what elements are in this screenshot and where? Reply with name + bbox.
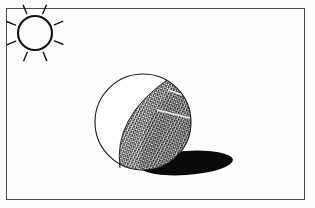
sun-ray-1 [7, 22, 15, 25]
sun-icon [7, 5, 63, 61]
sun-rays [7, 5, 63, 61]
sun-ray-5 [54, 41, 62, 44]
illustration-page: Light and shade on a sphere [0, 0, 315, 208]
sun-ray-7 [24, 52, 27, 60]
shading-diagram [0, 0, 315, 208]
sun-ray-2 [23, 5, 27, 13]
sun-disc-outline [18, 16, 52, 50]
sun-ray-3 [43, 5, 46, 13]
sun-ray-6 [43, 52, 47, 60]
sun-ray-4 [54, 21, 62, 25]
sun-ray-8 [7, 41, 15, 45]
